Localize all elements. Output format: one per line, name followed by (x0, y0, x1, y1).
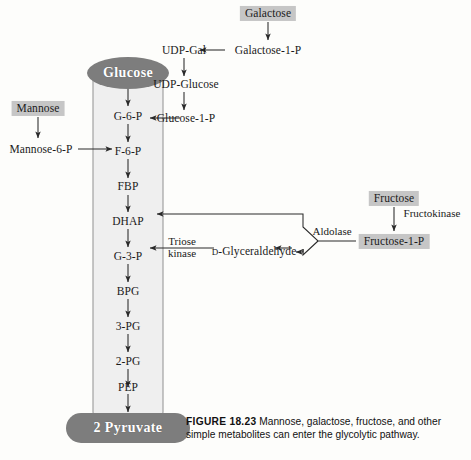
fructose-1-p-label: Fructose-1-P (359, 234, 430, 249)
metabolite-3pg-label: 3-PG (116, 320, 141, 332)
metabolite-f6p-label: F-6-P (115, 145, 142, 157)
d-glyceraldehyde-label: -Glyceraldehyde (218, 245, 296, 257)
fructose-source[interactable]: Fructose (369, 192, 419, 204)
metabolite-mannose-6-p[interactable]: Mannose-6-P (9, 143, 72, 155)
fructose-label: Fructose (369, 191, 419, 206)
metabolite-dhap-label: DHAP (112, 215, 144, 227)
triose-kinase-line1: Triose (168, 235, 196, 247)
metabolite-udp-gal[interactable]: UDP-Gal (162, 44, 206, 56)
metabolite-pep-label: PEP (118, 381, 138, 393)
metabolite-g6p-label: G-6-P (114, 110, 143, 122)
pyruvate-node[interactable]: 2 Pyruvate (66, 413, 190, 443)
metabolite-3pg[interactable]: 3-PG (116, 320, 141, 332)
glucose-1-p-label: Glucose-1-P (157, 112, 216, 124)
enzyme-aldolase: Aldolase (312, 226, 351, 238)
metabolite-g3p-label: G-3-P (114, 250, 143, 262)
udp-glucose-label: UDP-Glucose (153, 78, 219, 90)
pathway-diagram (0, 0, 471, 460)
figure-number: FIGURE 18.23 (186, 416, 256, 427)
metabolite-fbp[interactable]: FBP (118, 180, 139, 192)
metabolite-bpg[interactable]: BPG (117, 285, 140, 297)
metabolite-udp-glucose[interactable]: UDP-Glucose (153, 78, 219, 90)
enzyme-triose-kinase: Triose kinase (168, 236, 196, 259)
metabolite-f6p[interactable]: F-6-P (115, 145, 142, 157)
metabolite-galactose-1-p[interactable]: Galactose-1-P (235, 44, 301, 56)
galactose-label: Galactose (240, 6, 296, 21)
pyruvate-label: 2 Pyruvate (94, 420, 163, 436)
galactose-1-p-label: Galactose-1-P (235, 44, 301, 56)
figure-18-23: Glucose 2 Pyruvate G-6-P F-6-P FBP DHAP … (0, 0, 471, 460)
d-glyceraldehyde-prefix: D (212, 247, 219, 257)
udp-gal-label: UDP-Gal (162, 44, 206, 56)
metabolite-bpg-label: BPG (117, 285, 140, 297)
metabolite-pep[interactable]: PEP (118, 381, 138, 393)
metabolite-fbp-label: FBP (118, 180, 139, 192)
galactose-source[interactable]: Galactose (240, 7, 296, 19)
aldolase-label: Aldolase (312, 225, 351, 237)
mannose-label: Mannose (12, 101, 65, 116)
figure-caption: FIGURE 18.23 Mannose, galactose, fructos… (186, 415, 464, 442)
mannose-source[interactable]: Mannose (12, 102, 65, 114)
triose-kinase-line2: kinase (168, 247, 196, 259)
metabolite-glucose-1-p[interactable]: Glucose-1-P (157, 112, 216, 124)
metabolite-dhap[interactable]: DHAP (112, 215, 144, 227)
glucose-label: Glucose (103, 65, 153, 81)
metabolite-2pg-label: 2-PG (116, 355, 141, 367)
enzyme-fructokinase: Fructokinase (404, 208, 461, 220)
metabolite-2pg[interactable]: 2-PG (116, 355, 141, 367)
metabolite-fructose-1-p[interactable]: Fructose-1-P (359, 235, 430, 247)
metabolite-g6p[interactable]: G-6-P (114, 110, 143, 122)
metabolite-g3p[interactable]: G-3-P (114, 250, 143, 262)
metabolite-d-glyceraldehyde[interactable]: D-Glyceraldehyde (212, 245, 297, 257)
mannose-6-p-label: Mannose-6-P (9, 143, 72, 155)
fructokinase-label: Fructokinase (404, 207, 461, 219)
